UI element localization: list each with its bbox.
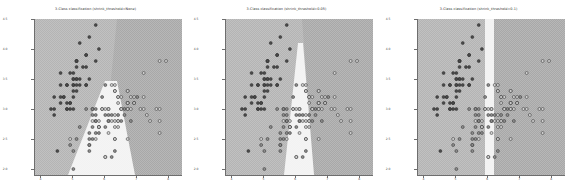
scatter-point [279, 150, 282, 153]
scatter-point [94, 60, 97, 63]
scatter-point [509, 138, 512, 141]
scatter-point [480, 126, 483, 129]
scatter-point [269, 126, 272, 129]
scatter-point [458, 90, 461, 93]
scatter-point [91, 126, 94, 129]
scatter-point [487, 114, 490, 117]
scatter-point [110, 120, 113, 123]
scatter-point [503, 96, 506, 99]
scatter-point [72, 96, 75, 99]
scatter-point [298, 120, 301, 123]
scatter-point [436, 96, 439, 99]
scatter-point [445, 96, 448, 99]
scatter-point [500, 114, 503, 117]
x-tick-mark [327, 175, 328, 178]
x-tick-mark [168, 175, 169, 178]
scatter-point [97, 48, 100, 51]
scatter-point [333, 96, 336, 99]
scatter-point [276, 54, 279, 57]
scatter-point [477, 120, 480, 123]
scatter-point [247, 150, 250, 153]
x-tick-mark [295, 175, 296, 178]
scatter-point [282, 114, 285, 117]
scatter-point [62, 96, 65, 99]
y-tick-label: 4.5 [3, 17, 8, 21]
scatter-point [69, 138, 72, 141]
scatter-point [244, 114, 247, 117]
scatter-point [104, 84, 107, 87]
scatter-point [487, 126, 490, 129]
scatter-point [516, 102, 519, 105]
scatter-point [113, 126, 116, 129]
y-tick-label: 2.0 [3, 167, 8, 171]
scatter-point [53, 96, 56, 99]
scatter-point [330, 108, 333, 111]
scatter-point [260, 138, 263, 141]
x-tick-mark [40, 175, 41, 178]
scatter-point [260, 108, 263, 111]
scatter-point [461, 126, 464, 129]
scatter-point [75, 60, 78, 63]
scatter-point [509, 108, 512, 111]
scatter-point [295, 156, 298, 159]
y-tick-mark [31, 139, 34, 140]
scatter-point [308, 102, 311, 105]
scatter-point [327, 96, 330, 99]
scatter-point [256, 108, 259, 111]
scatter-point [538, 108, 541, 111]
scatter-point [78, 84, 81, 87]
scatter-point [474, 108, 477, 111]
scatter-point [336, 114, 339, 117]
subplot-panel-0: 3-Class classification (shrink_threshold… [0, 0, 191, 193]
scatter-point [263, 84, 266, 87]
y-tick-label: 2.5 [386, 137, 391, 141]
x-tick-mark [423, 175, 424, 178]
scatter-point [260, 72, 263, 75]
scatter-point [53, 114, 56, 117]
scatter-point [455, 90, 458, 93]
scatter-point [311, 96, 314, 99]
scatter-point [145, 114, 148, 117]
scatter-point [314, 114, 317, 117]
scatter-point [320, 120, 323, 123]
scatter-point [65, 108, 68, 111]
scatter-point [474, 114, 477, 117]
y-tick-mark [414, 139, 417, 140]
scatter-point [528, 114, 531, 117]
scatter-point [532, 120, 535, 123]
scatter-point [496, 126, 499, 129]
y-tick-label: 3.5 [194, 77, 199, 81]
scatter-point [324, 96, 327, 99]
scatter-point [279, 132, 282, 135]
x-tick-mark [263, 175, 264, 178]
y-tick-mark [414, 79, 417, 80]
scatter-point [448, 84, 451, 87]
subplot-panel-2: 3-Class classification (shrink_threshold… [383, 0, 574, 193]
scatter-point [458, 60, 461, 63]
scatter-point [541, 108, 544, 111]
scatter-point [75, 138, 78, 141]
scatter-point [72, 72, 75, 75]
scatter-point [81, 66, 84, 69]
scatter-point [298, 108, 301, 111]
scatter-point [113, 150, 116, 153]
scatter-point [484, 108, 487, 111]
scatter-point [104, 114, 107, 117]
scatter-point [133, 96, 136, 99]
y-tick-label: 2.0 [386, 167, 391, 171]
scatter-point [308, 96, 311, 99]
scatter-point [541, 132, 544, 135]
scatter-point [65, 102, 68, 105]
y-tick-label: 2.0 [194, 167, 199, 171]
scatter-point [548, 60, 551, 63]
scatter-point [493, 156, 496, 159]
scatter-point [78, 78, 81, 81]
scatter-point [477, 60, 480, 63]
scatter-point [458, 66, 461, 69]
scatter-point [244, 108, 247, 111]
scatter-point [142, 108, 145, 111]
scatter-point [349, 120, 352, 123]
scatter-point [107, 132, 110, 135]
scatter-point [279, 36, 282, 39]
scatter-point [308, 126, 311, 129]
